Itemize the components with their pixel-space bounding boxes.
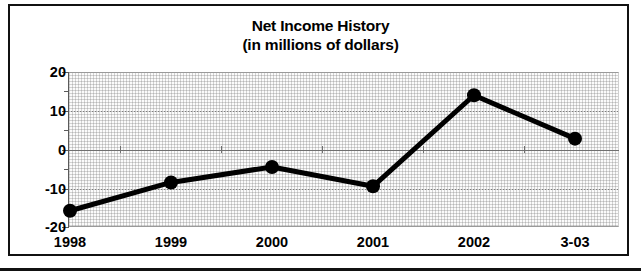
plot-wrapper: 20 10 0 -10 -20 1998 1999 2000 [10,6,631,258]
data-point-2002 [467,88,481,102]
series-plot [10,6,631,258]
data-point-3-03 [568,132,582,146]
data-point-2000 [265,160,279,174]
x-axis-label-2001: 2001 [328,234,418,250]
data-point-1998 [63,204,77,218]
x-axis-label-2000: 2000 [227,234,317,250]
x-axis-label-1998: 1998 [25,234,115,250]
x-axis-label-1999: 1999 [126,234,216,250]
x-axis-label-2002: 2002 [429,234,519,250]
chart-frame: Net Income History (in millions of dolla… [8,4,629,256]
series-line-net-income [70,95,575,210]
page-bottom-rule [0,268,641,271]
x-axis-label-3-03: 3-03 [530,234,620,250]
data-point-2001 [366,179,380,193]
data-point-1999 [164,175,178,189]
chart-figure: Net Income History (in millions of dolla… [0,0,641,275]
